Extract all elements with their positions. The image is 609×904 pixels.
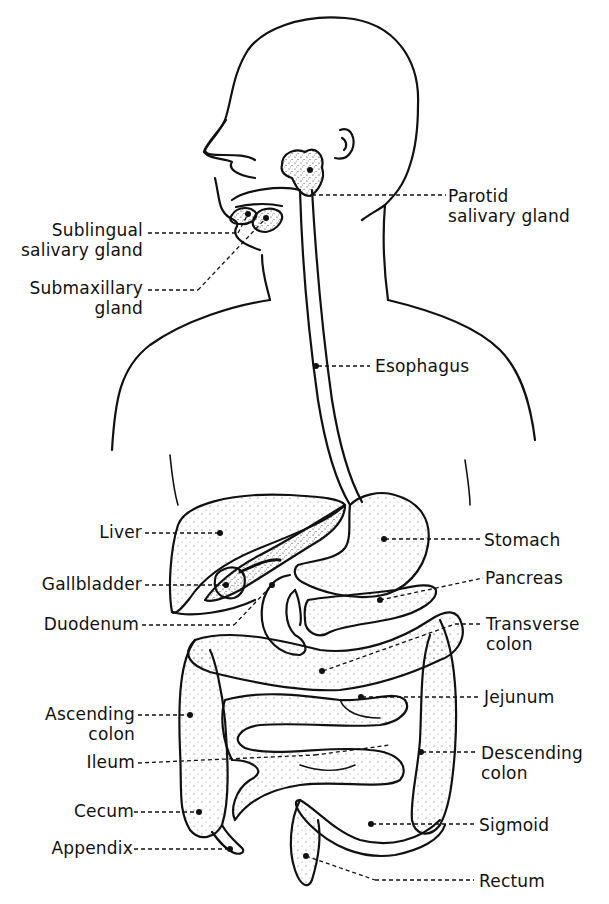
label-esophagus: Esophagus: [375, 356, 469, 376]
label-jejunum: Jejunum: [484, 687, 554, 707]
rectum: [291, 800, 320, 885]
small-intestine: [222, 694, 407, 820]
label-transverse-colon: Transverse colon: [486, 614, 580, 654]
liver: [170, 495, 345, 613]
label-pancreas: Pancreas: [485, 568, 563, 588]
label-rectum: Rectum: [479, 871, 545, 891]
label-stomach: Stomach: [484, 530, 560, 550]
label-sigmoid: Sigmoid: [479, 815, 549, 835]
label-sublingual-salivary-gland: Sublingual salivary gland: [21, 220, 143, 260]
label-duodenum: Duodenum: [44, 614, 139, 634]
label-parotid-salivary-gland: Parotid salivary gland: [448, 186, 570, 226]
label-gallbladder: Gallbladder: [42, 574, 142, 594]
label-liver: Liver: [99, 522, 142, 542]
label-descending-colon: Descending colon: [481, 743, 583, 783]
label-appendix: Appendix: [51, 838, 133, 858]
label-ascending-colon: Ascending colon: [45, 704, 135, 744]
label-ileum: Ileum: [86, 752, 135, 772]
label-cecum: Cecum: [74, 801, 134, 821]
label-submaxillary-gland: Submaxillary gland: [30, 278, 143, 318]
